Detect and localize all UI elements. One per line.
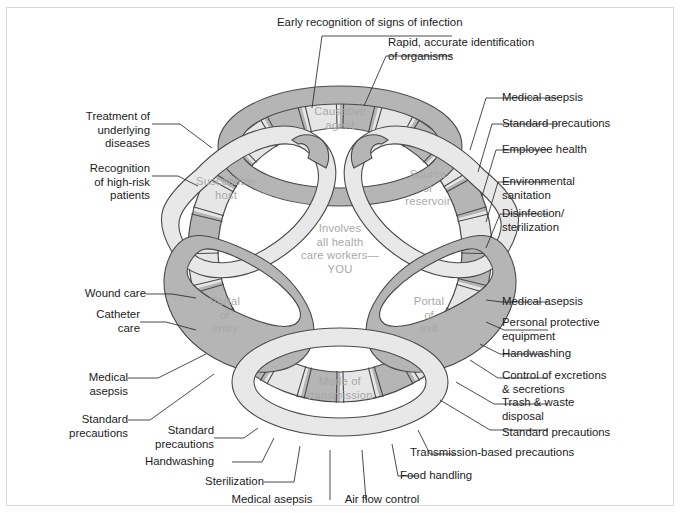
callout-environmental-sanitation: Environmental sanitation xyxy=(502,175,672,202)
callout-standard-precautions-source: Standard precautions xyxy=(502,117,672,131)
ring-label-mode-of-transmission: Mode of transmission xyxy=(292,375,388,402)
callout-rapid-accurate-identification-of-organisms: Rapid, accurate identification of organi… xyxy=(388,36,568,63)
weave-overlay-1 xyxy=(292,135,329,168)
callout-medical-asepsis-entry: Medical asepsis xyxy=(14,371,128,398)
callout-trash-waste-disposal: Trash & waste disposal xyxy=(502,396,672,423)
callout-early-recognition-of-signs-of-infection: Early recognition of signs of infection xyxy=(277,16,517,30)
ring-label-portal-of-exit: Portal of exit xyxy=(394,295,464,336)
ring-label-susceptible-host: Susceptible host xyxy=(178,175,274,202)
callout-employee-health: Employee health xyxy=(502,143,672,157)
callout-disinfection-sterilization: Disinfection/ sterilization xyxy=(502,207,672,234)
callout-recognition-of-high-risk-patients: Recognition of high-risk patients xyxy=(24,162,150,203)
ring-label-source-or-reservoir: Source or reservoir xyxy=(386,168,470,209)
callout-catheter-care: Catheter care xyxy=(20,308,140,335)
ring-label-causative-agent: Causative agent xyxy=(294,105,386,132)
callout-wound-care: Wound care xyxy=(20,287,146,301)
callout-medical-asepsis-transmission: Medical asepsis xyxy=(222,493,322,507)
callout-medical-asepsis-source: Medical asepsis xyxy=(502,91,672,105)
callout-standard-precautions-exit: Standard precautions xyxy=(502,426,678,440)
ring-label-portal-of-entry: Portal of entry xyxy=(190,295,260,336)
callout-air-flow-control: Air flow control xyxy=(330,493,434,507)
callout-treatment-of-underlying-diseases: Treatment of underlying diseases xyxy=(24,110,150,151)
center-note: Involves all health care workers— YOU xyxy=(285,222,395,276)
callout-medical-asepsis-exit: Medical asepsis xyxy=(502,295,672,309)
callout-personal-protective-equipment: Personal protective equipment xyxy=(502,316,672,343)
weave-overlay-2 xyxy=(351,135,388,168)
callout-control-of-excretions-secretions: Control of excretions & secretions xyxy=(502,369,678,396)
callout-food-handling: Food handling xyxy=(400,469,510,483)
callout-sterilization-transmission: Sterilization xyxy=(152,475,264,489)
callout-standard-precautions-transmission: Standard precautions xyxy=(98,424,214,451)
diagram-page: .bandD { fill:#b5b5b5; stroke:#4a4a4a; s… xyxy=(0,0,681,513)
callout-transmission-based-precautions: Transmission-based precautions xyxy=(410,446,620,460)
callout-handwashing-exit: Handwashing xyxy=(502,347,672,361)
callout-handwashing-transmission: Handwashing xyxy=(112,455,214,469)
